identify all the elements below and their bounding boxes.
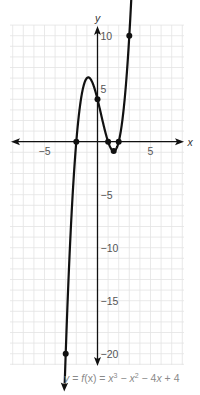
axes — [11, 26, 184, 366]
y-tick-label: −10 — [101, 242, 119, 254]
caption-minus4: − 4 — [139, 372, 157, 384]
y-tick-label: −5 — [101, 189, 113, 201]
function-graph: −55105−5−10−15−20xy — [0, 0, 200, 395]
data-point — [63, 351, 69, 357]
caption-minus: − — [118, 372, 130, 384]
x-tick-label: 5 — [148, 145, 154, 157]
data-point — [95, 96, 101, 102]
cubic-curve — [65, 0, 133, 386]
y-axis-label: y — [94, 12, 101, 24]
caption-plus4: + 4 — [162, 372, 180, 384]
tick-labels: −55105−5−10−15−20xy — [39, 12, 194, 360]
caption-fx: (x) — [84, 372, 96, 384]
y-tick-label: 10 — [101, 30, 113, 42]
data-point — [111, 148, 117, 154]
y-tick-label: −20 — [101, 348, 119, 360]
data-point — [73, 139, 79, 145]
data-point — [126, 33, 132, 39]
caption-eq2: = — [96, 372, 108, 384]
function-caption: y = f(x) = x3 − x2 − 4x + 4 — [64, 372, 180, 384]
y-tick-label: 5 — [101, 83, 107, 95]
x-tick-label: −5 — [39, 145, 51, 157]
data-point — [105, 139, 111, 145]
x-axis-label: x — [186, 136, 193, 148]
caption-eq: = — [69, 372, 81, 384]
y-tick-label: −15 — [101, 295, 119, 307]
data-point — [116, 139, 122, 145]
